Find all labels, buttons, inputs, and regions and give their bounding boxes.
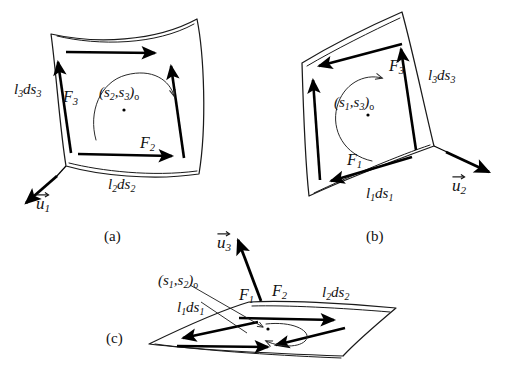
label-a-F2: F2: [140, 135, 155, 151]
caption-panel-c: (c): [106, 330, 123, 347]
label-c-F2: F2: [272, 283, 287, 299]
caption-panel-b: (b): [366, 228, 384, 245]
label-c-F1: F1: [239, 287, 254, 303]
label-b-F1: F1: [347, 152, 362, 168]
label-b-l1ds1: l1ds1: [366, 186, 393, 201]
label-b-l3ds3: l3ds3: [428, 68, 455, 83]
label-b-u2: u2: [452, 177, 466, 194]
label-b-F3: F3: [389, 58, 404, 74]
panel-b-circulation-arc: [336, 77, 382, 161]
figure-root: l3ds3 F3 (s2,s3)o F2 l2ds2 u1 (a) F3 l3d…: [0, 0, 507, 376]
label-a-l3ds3: l3ds3: [14, 82, 41, 97]
panel-b-unit-vector-u2: [434, 146, 489, 172]
label-a-center-point: (s2,s3)o: [99, 85, 139, 100]
label-b-center-point: (s1,s3)o: [334, 95, 374, 110]
panel-b-center-dot: [366, 113, 369, 116]
label-a-u1: u1: [36, 195, 50, 212]
label-c-l1ds1: l1ds1: [177, 300, 204, 315]
label-a-F3: F3: [63, 89, 78, 105]
diagram-canvas: [0, 0, 507, 376]
panel-c-center-dot: [266, 327, 269, 330]
panel-c-force-arrows: [177, 318, 345, 347]
panel-a-center-dot: [122, 108, 125, 111]
label-c-center-point: (s1,s2)o: [158, 273, 198, 288]
caption-panel-a: (a): [104, 228, 121, 245]
label-c-l2ds2: l2ds2: [322, 285, 349, 300]
label-a-l2ds2: l2ds2: [108, 177, 135, 192]
label-c-u3: u3: [217, 234, 231, 251]
